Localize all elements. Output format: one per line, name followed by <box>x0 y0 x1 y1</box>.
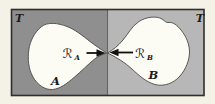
retract-b-symbol: ℛ <box>135 46 145 61</box>
set-b-label: B <box>148 68 159 82</box>
figure-canvas: T T A B ℛ A ℛ B <box>0 0 215 104</box>
ambient-space-label-right: T <box>196 12 205 25</box>
set-a-label: A <box>50 74 60 88</box>
retract-diagram: T T A B ℛ A ℛ B <box>0 0 215 104</box>
retract-a-subscript: A <box>74 53 81 62</box>
retract-b-subscript: B <box>146 53 153 62</box>
retract-a-symbol: ℛ <box>63 46 73 61</box>
ambient-space-label-left: T <box>15 12 24 25</box>
